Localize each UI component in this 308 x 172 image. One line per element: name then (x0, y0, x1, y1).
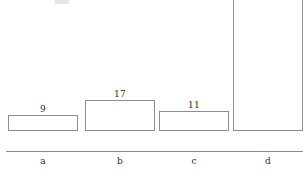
bar-value-label-a: 9 (8, 104, 78, 114)
bar-rect-c (159, 111, 229, 131)
bar-rect-b (85, 100, 155, 131)
plot-area: 9 17 11 76 (0, 0, 308, 152)
x-tick-label-b: b (85, 156, 155, 166)
x-tick-label-a: a (8, 156, 78, 166)
bar-rect-d (233, 0, 303, 131)
bar-value-label-b: 17 (85, 89, 155, 99)
x-tick-label-d: d (233, 156, 303, 166)
bar-chart-figure: 9 17 11 76 a b c d (0, 0, 308, 172)
x-axis-line (6, 151, 303, 152)
bar-rect-a (8, 115, 78, 131)
bar-value-label-c: 11 (159, 100, 229, 110)
x-tick-label-c: c (159, 156, 229, 166)
